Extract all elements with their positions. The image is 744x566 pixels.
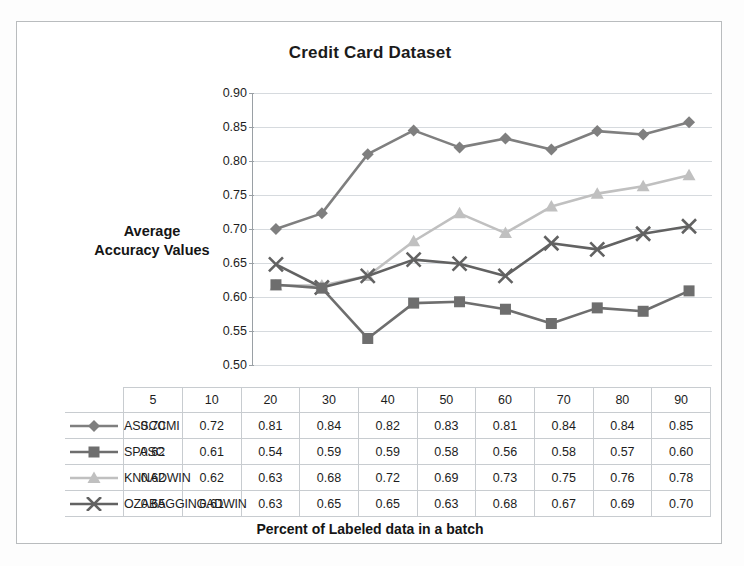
table-cell-value: 0.63 bbox=[417, 491, 476, 517]
x-marker bbox=[269, 257, 283, 271]
series-assccmi bbox=[270, 116, 695, 235]
table-cell-value: 0.72 bbox=[358, 465, 417, 491]
table-cell-value: 0.81 bbox=[241, 413, 300, 439]
series-line bbox=[276, 285, 689, 339]
triangle-marker bbox=[453, 207, 466, 219]
table-row: OZABAGGINGADWIN0.650.610.630.650.650.630… bbox=[65, 491, 711, 517]
y-axis-tick-label: 0.85 bbox=[223, 120, 247, 134]
square-marker bbox=[270, 279, 281, 290]
diamond-marker bbox=[499, 133, 511, 145]
table-cell-value: 0.58 bbox=[534, 439, 593, 465]
table-cell-value: 0.65 bbox=[358, 491, 417, 517]
table-column-header: 5 bbox=[124, 388, 183, 413]
table-cell-value: 0.69 bbox=[417, 465, 476, 491]
plot-area: 0.900.850.800.750.700.650.600.550.50 bbox=[252, 93, 712, 365]
table-column-header: 80 bbox=[593, 388, 652, 413]
y-axis-tick-label: 0.50 bbox=[223, 358, 247, 372]
legend-swatch-diamond bbox=[68, 419, 120, 433]
table-cell-value: 0.82 bbox=[358, 413, 417, 439]
screenshot-page: Credit Card Dataset Average Accuracy Val… bbox=[0, 0, 744, 566]
table-cell-value: 0.81 bbox=[476, 413, 535, 439]
table-cell-value: 0.59 bbox=[300, 439, 359, 465]
y-axis-title: Average Accuracy Values bbox=[77, 222, 227, 260]
triangle-marker bbox=[407, 235, 420, 247]
chart-title: Credit Card Dataset bbox=[17, 43, 723, 63]
y-axis-tick-mark bbox=[249, 365, 254, 366]
table-cell-value: 0.68 bbox=[476, 491, 535, 517]
y-axis-tick-label: 0.75 bbox=[223, 188, 247, 202]
diamond-marker bbox=[408, 124, 420, 136]
table-row: SPASC0.620.610.540.590.590.580.560.580.5… bbox=[65, 439, 711, 465]
diamond-marker bbox=[454, 141, 466, 153]
table-row: ASSCCMI0.700.720.810.840.820.830.810.840… bbox=[65, 413, 711, 439]
legend-item-spasc: SPASC bbox=[65, 439, 124, 465]
legend-item-knnadwin: KNNADWIN bbox=[65, 465, 124, 491]
diamond-marker bbox=[545, 143, 557, 155]
table-cell-value: 0.62 bbox=[182, 465, 241, 491]
diamond-marker bbox=[683, 116, 695, 128]
table-cell-value: 0.84 bbox=[300, 413, 359, 439]
table-cell-value: 0.85 bbox=[652, 413, 711, 439]
table-cell-value: 0.57 bbox=[593, 439, 652, 465]
table-cell-value: 0.83 bbox=[417, 413, 476, 439]
y-axis-title-line1: Average bbox=[77, 222, 227, 241]
legend-swatch-square bbox=[68, 445, 120, 459]
table-cell-value: 0.69 bbox=[593, 491, 652, 517]
table-column-header: 20 bbox=[241, 388, 300, 413]
square-marker bbox=[500, 304, 511, 315]
y-axis-tick-label: 0.80 bbox=[223, 154, 247, 168]
series-line bbox=[276, 226, 689, 287]
table-column-header: 30 bbox=[300, 388, 359, 413]
table-cell-value: 0.76 bbox=[593, 465, 652, 491]
plot-wrapper: 0.900.850.800.750.700.650.600.550.50 bbox=[236, 93, 711, 386]
table-cell-value: 0.70 bbox=[652, 491, 711, 517]
table-cell-value: 0.75 bbox=[534, 465, 593, 491]
table-column-header: 60 bbox=[476, 388, 535, 413]
table-cell-value: 0.67 bbox=[534, 491, 593, 517]
legend-item-assccmi: ASSCCMI bbox=[65, 413, 124, 439]
table-cell-value: 0.63 bbox=[241, 465, 300, 491]
gridline bbox=[253, 365, 712, 366]
square-marker bbox=[454, 296, 465, 307]
square-marker bbox=[316, 283, 327, 294]
chart-data-table: 5102030405060708090 ASSCCMI0.700.720.810… bbox=[65, 387, 711, 517]
table-cell-value: 0.61 bbox=[182, 439, 241, 465]
table-cell-value: 0.84 bbox=[593, 413, 652, 439]
table-column-header: 50 bbox=[417, 388, 476, 413]
table-cell-value: 0.58 bbox=[417, 439, 476, 465]
y-axis-tick-label: 0.90 bbox=[223, 86, 247, 100]
y-axis-tick-label: 0.55 bbox=[223, 324, 247, 338]
triangle-marker bbox=[683, 169, 696, 181]
series-line bbox=[276, 122, 689, 229]
legend-swatch-x bbox=[68, 497, 120, 511]
table-cell-value: 0.65 bbox=[300, 491, 359, 517]
series-knnadwin bbox=[269, 169, 695, 291]
square-marker bbox=[546, 318, 557, 329]
diamond-marker bbox=[270, 223, 282, 235]
square-marker bbox=[89, 446, 100, 457]
diamond-marker bbox=[591, 125, 603, 137]
table-header-row: 5102030405060708090 bbox=[65, 388, 711, 413]
series-spasc bbox=[270, 279, 694, 344]
table-cell-value: 0.60 bbox=[652, 439, 711, 465]
table-cell-value: 0.78 bbox=[652, 465, 711, 491]
table-column-header: 70 bbox=[534, 388, 593, 413]
table-cell-value: 0.56 bbox=[476, 439, 535, 465]
table-cell-value: 0.72 bbox=[182, 413, 241, 439]
square-marker bbox=[408, 298, 419, 309]
diamond-marker bbox=[637, 128, 649, 140]
table-column-header: 10 bbox=[182, 388, 241, 413]
table-cell-value: 0.54 bbox=[241, 439, 300, 465]
table-cell-value: 0.73 bbox=[476, 465, 535, 491]
table-column-header: 90 bbox=[652, 388, 711, 413]
legend-swatch-triangle bbox=[68, 471, 120, 485]
table-cell-value: 0.84 bbox=[534, 413, 593, 439]
legend-header-blank bbox=[65, 388, 124, 413]
y-axis-tick-label: 0.70 bbox=[223, 222, 247, 236]
table-cell-value: 0.68 bbox=[300, 465, 359, 491]
table-column-header: 40 bbox=[358, 388, 417, 413]
legend-item-ozabaggingadwin: OZABAGGINGADWIN bbox=[65, 491, 124, 517]
y-axis-title-line2: Accuracy Values bbox=[77, 241, 227, 260]
square-marker bbox=[638, 306, 649, 317]
diamond-marker bbox=[88, 420, 100, 432]
